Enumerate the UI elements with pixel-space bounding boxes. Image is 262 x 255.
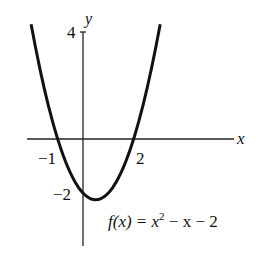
y-axis-label: y: [83, 10, 93, 28]
function-label: f(x) = x2 − x − 2: [108, 210, 218, 231]
chart: x y 4 −2 −1 2 f(x) = x2 − x − 2: [0, 0, 262, 255]
tick-label-neg2: −2: [53, 185, 71, 204]
curve: [31, 24, 160, 200]
tick-label-neg1: −1: [38, 149, 56, 168]
plot-svg: x y 4 −2 −1 2 f(x) = x2 − x − 2: [0, 0, 262, 255]
tick-label-4: 4: [67, 23, 76, 42]
x-axis-label: x: [236, 129, 245, 148]
tick-label-2: 2: [136, 149, 145, 168]
